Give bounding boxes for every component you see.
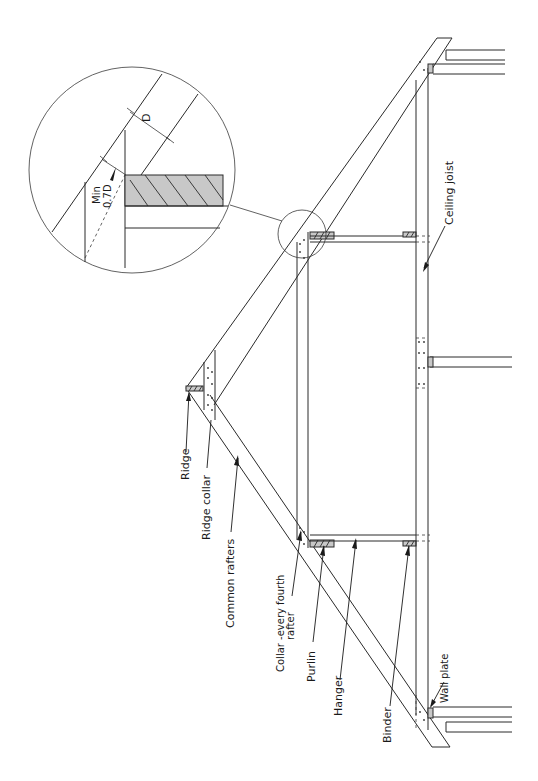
wall-top <box>428 50 505 74</box>
binder-upper <box>403 232 416 237</box>
detail-min-label: Min <box>91 186 102 204</box>
collar-tie <box>297 232 308 548</box>
interior-wall <box>428 357 512 367</box>
labels: Ridge Ridge collar Common rafters Collar… <box>179 160 456 743</box>
rafter-upper <box>186 38 452 405</box>
label-ridge-collar: Ridge collar <box>200 474 213 540</box>
ridge-board <box>186 386 203 391</box>
label-collar-line2: rafter <box>285 611 296 640</box>
label-common-rafters: Common rafters <box>224 538 237 628</box>
wall-bottom <box>428 707 512 732</box>
detail-depth-label: D <box>140 114 153 122</box>
ceiling-joist <box>416 68 428 730</box>
label-ceiling-joist: Ceiling joist <box>443 160 456 225</box>
roof-framing-diagram: D Min 0.7D Ridge Ridge collar Common raf… <box>0 0 538 781</box>
detail-min-value: 0.7D <box>102 184 113 208</box>
label-wall-plate: Wall plate <box>439 654 450 703</box>
label-ridge: Ridge <box>179 448 192 480</box>
label-purlin: Purlin <box>305 651 318 682</box>
label-hanger: Hanger <box>332 675 345 716</box>
purlin-detail: D Min 0.7D <box>29 67 235 273</box>
detail-purlin <box>125 175 223 206</box>
binder-lower <box>403 541 416 546</box>
roof-frame <box>186 38 512 747</box>
label-binder: Binder <box>381 707 394 743</box>
eaves-fixings <box>416 61 425 730</box>
